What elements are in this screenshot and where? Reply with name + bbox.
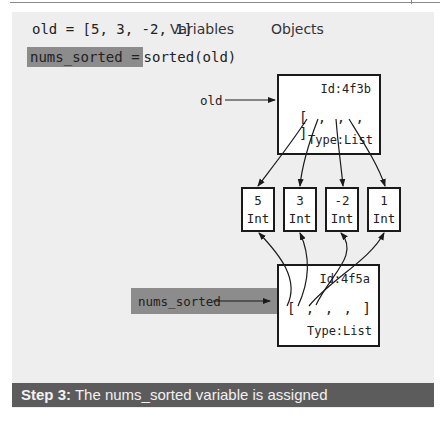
step-label: Step 3:: [21, 386, 71, 403]
reference-arrows: [0, 0, 445, 422]
step-text: The nums_sorted variable is assigned: [71, 386, 328, 403]
step-caption: Step 3: The nums_sorted variable is assi…: [12, 383, 434, 407]
